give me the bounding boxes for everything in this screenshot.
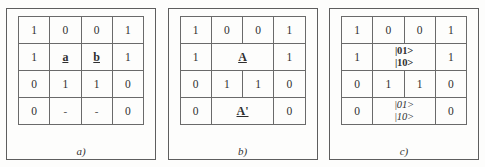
cell-value: 0 bbox=[287, 105, 293, 117]
grid-cell: 0 bbox=[435, 98, 466, 125]
panel-label-a: a) bbox=[7, 145, 155, 157]
grid-cell: 0 bbox=[50, 17, 81, 44]
grid-cell: 1 bbox=[81, 71, 112, 98]
grid-cell: 1 bbox=[112, 17, 143, 44]
grid-cell: 0 bbox=[112, 71, 143, 98]
cell-value: 0 bbox=[287, 78, 293, 90]
grid-row: 0110 bbox=[180, 71, 305, 98]
cell-value: 0 bbox=[31, 105, 37, 117]
cell-value: 1 bbox=[354, 51, 360, 63]
cell-value: a bbox=[62, 50, 68, 64]
grid-cell: A bbox=[211, 44, 274, 71]
grid-row: 0--0 bbox=[19, 98, 144, 125]
ket-label: |10> bbox=[373, 57, 435, 69]
grid-row: 1001 bbox=[180, 17, 305, 44]
grid-cell: 1 bbox=[435, 44, 466, 71]
grid-cell: 0 bbox=[243, 17, 274, 44]
grid-cell: 0 bbox=[404, 17, 435, 44]
cell-value: 0 bbox=[255, 24, 261, 36]
grid-cell: 1 bbox=[373, 71, 404, 98]
grid-row: 1ab1 bbox=[19, 44, 144, 71]
ket-label: |01> bbox=[373, 45, 435, 57]
grid-cell: - bbox=[50, 98, 81, 125]
grid-cell: A' bbox=[211, 98, 274, 125]
grid-cell: 1 bbox=[180, 44, 211, 71]
grid-row: 0A'0 bbox=[180, 98, 305, 125]
cell-value: 1 bbox=[31, 24, 37, 36]
grid-cell: 1 bbox=[50, 71, 81, 98]
grid-cell: 1 bbox=[435, 17, 466, 44]
grid-cell: 1 bbox=[342, 17, 373, 44]
grid-cell: 0 bbox=[435, 71, 466, 98]
cell-value: 1 bbox=[94, 78, 100, 90]
grid-cell: 1 bbox=[112, 44, 143, 71]
cell-value: 1 bbox=[448, 24, 454, 36]
grid-cell: 1 bbox=[19, 17, 50, 44]
grid-cell: 1 bbox=[274, 44, 305, 71]
cell-value: 1 bbox=[386, 78, 392, 90]
cell-value: 1 bbox=[287, 24, 293, 36]
cell-value: 0 bbox=[354, 78, 360, 90]
cell-value: - bbox=[64, 105, 68, 117]
cell-value: 0 bbox=[94, 24, 100, 36]
grid-cell: 1 bbox=[180, 17, 211, 44]
grid-cell: 0 bbox=[180, 98, 211, 125]
grid-cell: |01>|10> bbox=[373, 44, 436, 71]
cell-value: 0 bbox=[63, 24, 69, 36]
cell-value: 1 bbox=[255, 78, 261, 90]
grid-cell: 0 bbox=[81, 17, 112, 44]
grid-cell: 1 bbox=[243, 71, 274, 98]
ket-label: |01> bbox=[373, 99, 435, 111]
cell-value: 0 bbox=[125, 105, 131, 117]
grid-row: 0110 bbox=[342, 71, 467, 98]
cell-value: 0 bbox=[193, 78, 199, 90]
cell-value: 0 bbox=[224, 24, 230, 36]
cell-value: 0 bbox=[448, 105, 454, 117]
grid-cell: 0 bbox=[342, 98, 373, 125]
cell-value: 1 bbox=[193, 51, 199, 63]
grid-cell: a bbox=[50, 44, 81, 71]
grid-row: 1A1 bbox=[180, 44, 305, 71]
grid-cell: 0 bbox=[373, 17, 404, 44]
grid-cell: 0 bbox=[211, 17, 242, 44]
panel-a: 10011ab101100--0a) bbox=[6, 8, 156, 160]
grid-row: 1001 bbox=[342, 17, 467, 44]
cell-value: 1 bbox=[417, 78, 423, 90]
grid-row: 1|01>|10>1 bbox=[342, 44, 467, 71]
grid-cell: 1 bbox=[404, 71, 435, 98]
cell-value: 0 bbox=[448, 78, 454, 90]
cell-value: 1 bbox=[354, 24, 360, 36]
cell-value: 1 bbox=[448, 51, 454, 63]
cell-value: 0 bbox=[193, 105, 199, 117]
grid-b: 10011A101100A'0 bbox=[180, 16, 306, 125]
grid-cell: 1 bbox=[274, 17, 305, 44]
grid-cell: |01>|10> bbox=[373, 98, 436, 125]
panel-label-c: c) bbox=[330, 145, 478, 157]
panel-b: 10011A101100A'0b) bbox=[168, 8, 318, 160]
grid-cell: - bbox=[81, 98, 112, 125]
figure-container: 10011ab101100--0a)10011A101100A'0b)10011… bbox=[0, 0, 485, 167]
panel-label-b: b) bbox=[169, 145, 317, 157]
cell-value: 1 bbox=[125, 51, 131, 63]
cell-value: 0 bbox=[354, 105, 360, 117]
cell-value: 0 bbox=[31, 78, 37, 90]
grid-cell: b bbox=[81, 44, 112, 71]
grid-cell: 0 bbox=[19, 71, 50, 98]
cell-value: 1 bbox=[224, 78, 230, 90]
grid-row: 1001 bbox=[19, 17, 144, 44]
cell-value: b bbox=[93, 50, 100, 64]
cell-value: 1 bbox=[63, 78, 69, 90]
grid-cell: 0 bbox=[19, 98, 50, 125]
cell-value: A' bbox=[237, 104, 249, 118]
cell-value: - bbox=[95, 105, 99, 117]
grid-cell: 0 bbox=[274, 71, 305, 98]
cell-value: 1 bbox=[31, 51, 37, 63]
cell-value: 1 bbox=[287, 51, 293, 63]
grid-row: 0110 bbox=[19, 71, 144, 98]
grid-cell: 0 bbox=[342, 71, 373, 98]
grid-cell: 1 bbox=[211, 71, 242, 98]
grid-cell: 1 bbox=[19, 44, 50, 71]
panel-c: 10011|01>|10>101100|01>|10>0c) bbox=[329, 8, 479, 160]
cell-value: 1 bbox=[125, 24, 131, 36]
cell-value: 0 bbox=[417, 24, 423, 36]
